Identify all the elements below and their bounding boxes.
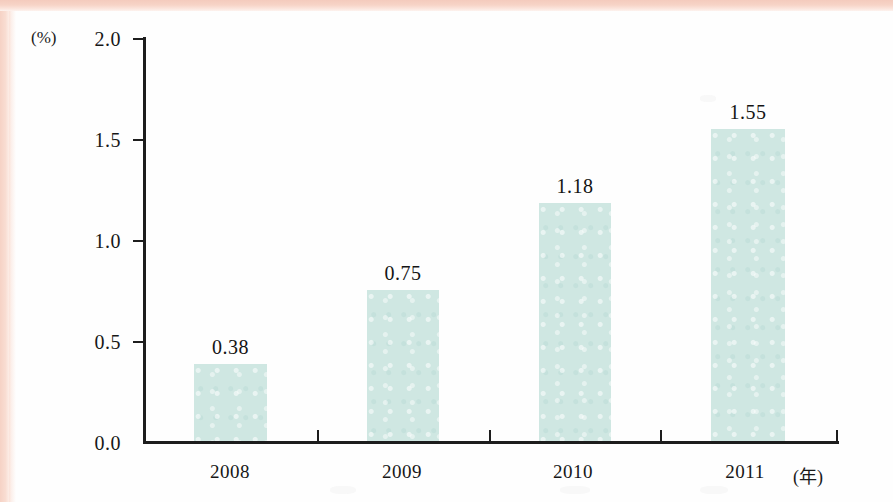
y-tick-0-5 xyxy=(133,341,144,343)
y-axis-unit-label: (%) xyxy=(31,28,56,48)
x-tick-label-2008: 2008 xyxy=(185,461,275,483)
x-tick-4 xyxy=(836,430,838,442)
x-tick-1 xyxy=(317,430,319,442)
y-tick-1-0 xyxy=(133,240,144,242)
x-tick-3 xyxy=(660,430,662,442)
y-tick-label-0-5-wrap: 0.5 xyxy=(57,331,121,351)
y-tick-label-0-0-wrap: 0.0 xyxy=(57,432,121,452)
bar-2009 xyxy=(367,290,439,441)
y-tick-label-2-0-wrap: 2.0 xyxy=(57,28,121,48)
y-tick-label-1-5: 1.5 xyxy=(57,129,121,152)
bar-chart-plot: (%) 2.0 1.5 1.0 0.5 0.0 0.38 0.75 1 xyxy=(0,0,893,502)
bar-value-2011: 1.55 xyxy=(688,101,808,124)
y-tick-label-1-0: 1.0 xyxy=(57,230,121,253)
y-tick-label-1-5-wrap: 1.5 xyxy=(57,129,121,149)
page-edge-left-fade xyxy=(9,11,16,502)
y-tick-1-5 xyxy=(133,139,144,141)
bar-2011 xyxy=(711,129,785,441)
x-tick-label-2009: 2009 xyxy=(357,461,447,483)
bar-value-2010: 1.18 xyxy=(515,175,635,198)
y-tick-label-0-0: 0.0 xyxy=(57,432,121,455)
x-tick-label-2010: 2010 xyxy=(528,461,618,483)
x-axis-unit-label: (年) xyxy=(793,462,823,488)
bar-2008 xyxy=(194,364,267,441)
y-tick-label-2-0: 2.0 xyxy=(57,28,121,51)
page-edge-top xyxy=(0,0,893,11)
x-tick-label-2011: 2011 xyxy=(700,461,790,483)
y-tick-2-0 xyxy=(133,38,144,40)
x-axis-line xyxy=(143,441,839,444)
x-tick-2 xyxy=(489,430,491,442)
y-tick-label-1-0-wrap: 1.0 xyxy=(57,230,121,250)
x-tick-0 xyxy=(144,430,146,442)
bar-value-2009: 0.75 xyxy=(343,262,463,285)
chart-screenshot: (%) 2.0 1.5 1.0 0.5 0.0 0.38 0.75 1 xyxy=(0,0,893,502)
bar-2010 xyxy=(539,203,611,441)
y-tick-label-0-5: 0.5 xyxy=(57,331,121,354)
bar-value-2008: 0.38 xyxy=(171,336,291,359)
